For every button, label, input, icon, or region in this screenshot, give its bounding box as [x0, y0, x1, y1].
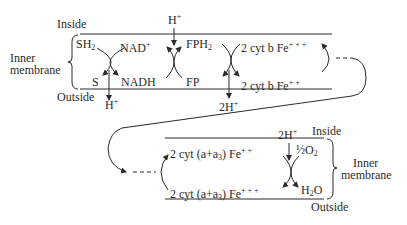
sh2-node: SH2 [76, 38, 95, 54]
arrow-fph2-to-fp [222, 44, 231, 76]
arrow-cytb-cycle [322, 44, 329, 72]
connector-curve-bottom [108, 128, 126, 172]
top-outside-label: Outside [57, 91, 94, 104]
arrow-nadh-to-fph2 [166, 47, 174, 78]
bottom-brace [327, 139, 337, 199]
cyt-aa3-fe3-node: 2 cyt (a+a3) Fe+ + + [170, 184, 259, 204]
nadh-node: NADH [121, 76, 156, 89]
cyt-b-fe3-node: 2 cyt b Fe+ + + [241, 38, 306, 55]
h2o-node: H2O [301, 184, 322, 200]
arrow-fp-cross [174, 47, 182, 78]
two-h-plus-out-node: 2H+ [219, 97, 238, 114]
fp-node: FP [186, 76, 199, 89]
cyt-aa3-fe2-node: 2 cyt (a+a3) Fe+ + [170, 144, 252, 164]
arrow-cyt-aa3-cycle [161, 155, 168, 190]
arrow-aa3-fe2-to-fe3 [283, 156, 291, 187]
top-inside-label: Inside [57, 18, 86, 31]
h-plus-in-node: H+ [168, 10, 181, 27]
two-h-plus-in-node: 2H+ [278, 125, 297, 142]
s-node: S [92, 76, 99, 89]
diagram-canvas: Inside Outside Inner membrane SH2 NAD+ S… [0, 0, 407, 225]
bottom-inside-label: Inside [312, 125, 341, 138]
connector-line [122, 58, 366, 128]
h-plus-out-node: H+ [105, 95, 118, 112]
arrow-o2-to-h2o [291, 156, 299, 187]
top-inner-membrane-label-2: membrane [10, 64, 61, 77]
half-o2-node: ½O2 [296, 144, 318, 160]
cyt-b-fe2-node: 2 cyt b Fe+ + [241, 76, 300, 93]
fph2-node: FPH2 [186, 38, 212, 54]
bottom-inner-membrane-label-2: membrane [341, 169, 392, 182]
nad-plus-node: NAD+ [120, 38, 151, 55]
bottom-outside-label: Outside [311, 201, 348, 214]
arrow-cytb-cross [231, 44, 240, 76]
